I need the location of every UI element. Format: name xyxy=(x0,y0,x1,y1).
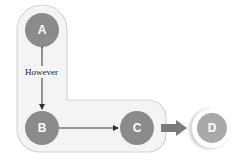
node-b[interactable]: B xyxy=(25,111,59,145)
node-d-label: D xyxy=(208,121,217,135)
node-b-label: B xyxy=(38,121,47,135)
node-a[interactable]: A xyxy=(25,13,59,47)
node-a-label: A xyxy=(38,23,47,37)
diagram-canvas: A B C D However xyxy=(0,0,242,162)
node-d[interactable]: D xyxy=(197,113,227,143)
node-c[interactable]: C xyxy=(120,111,154,145)
node-c-label: C xyxy=(133,121,142,135)
edge-label-however: However xyxy=(24,67,59,77)
